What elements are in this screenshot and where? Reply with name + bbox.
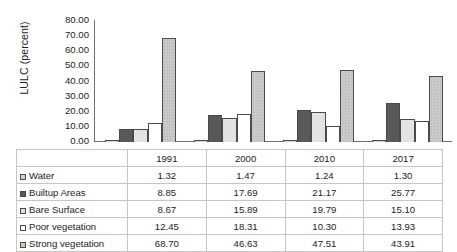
column-header-2010: 2010	[285, 150, 364, 167]
column-header-2000: 2000	[206, 150, 285, 167]
cell-strong-vegetation-2017: 43.91	[364, 235, 443, 252]
bar-water-2000	[194, 140, 208, 142]
cell-poor-vegetation-1991: 12.45	[128, 218, 207, 235]
bar-strong-vegetation-2017	[429, 76, 443, 142]
legend-item-strong-vegetation: Strong vegetation	[17, 235, 128, 252]
legend-label: Builtup Areas	[29, 187, 86, 198]
column-header-2017: 2017	[364, 150, 443, 167]
y-tick-label: 20.00	[65, 106, 89, 116]
cell-strong-vegetation-2010: 47.51	[285, 235, 364, 252]
cell-builtup-areas-2010: 21.17	[285, 184, 364, 201]
column-header-1991: 1991	[128, 150, 207, 167]
cell-water-2000: 1.47	[206, 167, 285, 184]
bar-groups	[96, 20, 452, 142]
legend-item-water: Water	[17, 167, 128, 184]
y-axis-tick-labels: 80.0070.0060.0050.0040.0030.0020.0010.00…	[38, 8, 92, 142]
cell-builtup-areas-2000: 17.69	[206, 184, 285, 201]
table-row: Strong vegetation68.7046.6347.5143.91	[17, 235, 443, 252]
cell-poor-vegetation-2000: 18.31	[206, 218, 285, 235]
bar-group-2010	[274, 20, 363, 142]
table-row: Poor vegetation12.4518.3110.3013.93	[17, 218, 443, 235]
y-tick-label: 10.00	[65, 121, 89, 131]
cell-poor-vegetation-2010: 10.30	[285, 218, 364, 235]
bar-poor-vegetation-2017	[415, 121, 429, 142]
y-axis-title: LULC (percent)	[18, 0, 30, 128]
legend-label: Poor vegetation	[29, 221, 96, 232]
bar-bare-surface-2010	[311, 112, 325, 142]
bar-poor-vegetation-2010	[326, 126, 340, 142]
bar-strong-vegetation-1991	[162, 38, 176, 142]
y-tick-label: 80.00	[65, 15, 89, 25]
table-header-row: 1991200020102017	[17, 150, 443, 167]
bar-builtup-areas-2017	[386, 103, 400, 142]
legend-swatch-icon	[20, 225, 26, 231]
bar-group-2017	[363, 20, 452, 142]
cell-bare-surface-2010: 19.79	[285, 201, 364, 218]
legend-label: Strong vegetation	[29, 238, 104, 249]
legend-item-bare-surface: Bare Surface	[17, 201, 128, 218]
y-tick-label: 50.00	[65, 61, 89, 71]
bar-group-2000	[185, 20, 274, 142]
y-tick-label: 30.00	[65, 91, 89, 101]
bar-poor-vegetation-1991	[148, 123, 162, 142]
bar-poor-vegetation-2000	[237, 114, 251, 142]
cell-strong-vegetation-1991: 68.70	[128, 235, 207, 252]
bar-group-1991	[96, 20, 185, 142]
cell-poor-vegetation-2017: 13.93	[364, 218, 443, 235]
bar-bare-surface-1991	[133, 129, 147, 142]
bar-strong-vegetation-2000	[251, 71, 265, 142]
y-tick-label: 60.00	[65, 45, 89, 55]
bar-water-1991	[105, 140, 119, 142]
bar-builtup-areas-2000	[208, 115, 222, 142]
legend-item-poor-vegetation: Poor vegetation	[17, 218, 128, 235]
table-row: Builtup Areas8.8517.6921.1725.77	[17, 184, 443, 201]
legend-swatch-icon	[20, 174, 26, 180]
data-table: 1991200020102017Water1.321.471.241.30Bui…	[16, 149, 443, 252]
table-row: Bare Surface8.6715.8919.7915.10	[17, 201, 443, 218]
table-corner-cell	[17, 150, 128, 167]
y-tick-label: 40.00	[65, 76, 89, 86]
bar-builtup-areas-1991	[119, 129, 133, 142]
bar-bare-surface-2017	[400, 119, 414, 142]
y-tick-label: 0.00	[70, 136, 89, 146]
bar-strong-vegetation-2010	[340, 70, 354, 142]
plot-area: LULC (percent) 80.0070.0060.0050.0040.00…	[0, 8, 457, 150]
cell-water-2017: 1.30	[364, 167, 443, 184]
cell-bare-surface-2017: 15.10	[364, 201, 443, 218]
cell-water-2010: 1.24	[285, 167, 364, 184]
legend-item-builtup-areas: Builtup Areas	[17, 184, 128, 201]
bar-water-2010	[283, 140, 297, 142]
cell-builtup-areas-2017: 25.77	[364, 184, 443, 201]
bar-water-2017	[372, 140, 386, 142]
cell-strong-vegetation-2000: 46.63	[206, 235, 285, 252]
cell-bare-surface-1991: 8.67	[128, 201, 207, 218]
cell-bare-surface-2000: 15.89	[206, 201, 285, 218]
bar-bare-surface-2000	[222, 118, 236, 142]
cell-water-1991: 1.32	[128, 167, 207, 184]
bar-builtup-areas-2010	[297, 110, 311, 142]
legend-label: Water	[29, 170, 54, 181]
legend-swatch-icon	[20, 242, 26, 248]
y-tick-label: 70.00	[65, 30, 89, 40]
legend-label: Bare Surface	[29, 204, 85, 215]
data-table-wrap: 1991200020102017Water1.321.471.241.30Bui…	[16, 149, 443, 252]
legend-swatch-icon	[20, 191, 26, 197]
legend-swatch-icon	[20, 208, 26, 214]
cell-builtup-areas-1991: 8.85	[128, 184, 207, 201]
table-row: Water1.321.471.241.30	[17, 167, 443, 184]
